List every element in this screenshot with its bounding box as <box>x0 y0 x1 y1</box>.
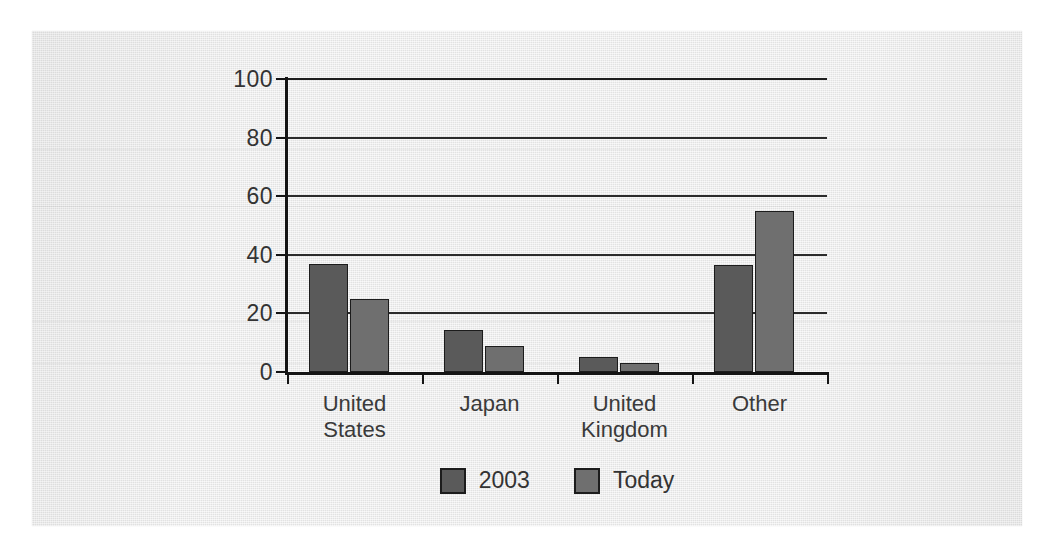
bar-japan-2003 <box>444 330 483 372</box>
bar-united-kingdom-2003 <box>579 357 618 372</box>
legend-swatch-2003 <box>440 468 466 494</box>
y-tick-label-20: 20 <box>246 300 273 327</box>
bar-united-states-2003 <box>309 264 348 372</box>
legend-item-2003: 2003 <box>440 467 530 494</box>
gridline-80 <box>287 137 827 139</box>
figure-panel: 020406080100 United StatesJapanUnited Ki… <box>32 31 1022 526</box>
y-tick-label-0: 0 <box>260 359 273 386</box>
y-tick-label-40: 40 <box>246 241 273 268</box>
y-axis-line <box>285 77 288 374</box>
x-axis-tick-1 <box>422 372 424 384</box>
x-axis-tick-0 <box>287 372 289 384</box>
category-label-japan: Japan <box>422 391 557 417</box>
gridline-100 <box>287 78 827 80</box>
scanned-page: 020406080100 United StatesJapanUnited Ki… <box>0 0 1048 553</box>
bar-other-2003 <box>714 265 753 372</box>
x-axis-tick-2 <box>557 372 559 384</box>
legend-item-today: Today <box>574 467 674 494</box>
y-tick-label-60: 60 <box>246 183 273 210</box>
chart-legend: 2003Today <box>287 467 827 494</box>
bar-united-states-today <box>350 299 389 372</box>
category-label-united-states: United States <box>287 391 422 443</box>
category-label-other: Other <box>692 391 827 417</box>
bar-other-today <box>755 211 794 372</box>
y-tick-label-100: 100 <box>233 66 273 93</box>
bar-japan-today <box>485 346 524 372</box>
gridline-40 <box>287 254 827 256</box>
x-axis-tick-4 <box>827 372 829 384</box>
legend-label-today: Today <box>613 467 674 494</box>
legend-label-2003: 2003 <box>479 467 530 494</box>
bar-united-kingdom-today <box>620 363 659 372</box>
legend-swatch-today <box>574 468 600 494</box>
x-axis-tick-3 <box>692 372 694 384</box>
gridline-60 <box>287 195 827 197</box>
category-label-united-kingdom: United Kingdom <box>557 391 692 443</box>
bar-chart-plot-area: 020406080100 United StatesJapanUnited Ki… <box>287 79 827 372</box>
y-tick-label-80: 80 <box>246 124 273 151</box>
